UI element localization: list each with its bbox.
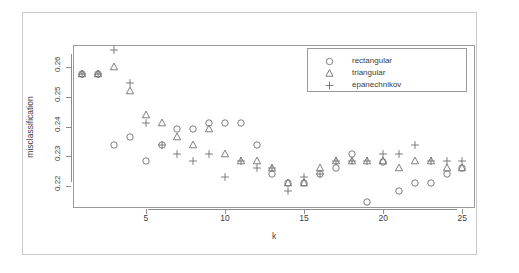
data-point-rectangular: [205, 118, 214, 127]
data-point-rectangular: [442, 169, 451, 178]
data-point-triangular: [379, 156, 388, 165]
data-point-epanechnikov: [379, 150, 388, 159]
y-tick-label: 0.23: [53, 151, 62, 161]
data-point-epanechnikov: [395, 150, 404, 159]
data-point-triangular: [458, 163, 467, 172]
y-tick-label: 0.26: [53, 62, 62, 72]
y-tick-label: 0.22: [53, 181, 62, 191]
y-tick-mark: [66, 127, 71, 128]
data-point-triangular: [300, 179, 309, 188]
data-point-triangular: [331, 156, 340, 165]
data-point-triangular: [363, 156, 372, 165]
x-axis-title: k: [272, 231, 276, 241]
data-point-triangular: [442, 163, 451, 172]
data-point-epanechnikov: [110, 46, 119, 55]
data-point-triangular: [236, 156, 245, 165]
data-point-epanechnikov: [141, 118, 150, 127]
data-point-epanechnikov: [363, 156, 372, 165]
data-point-triangular: [94, 70, 103, 79]
data-point-triangular: [252, 156, 261, 165]
data-point-triangular: [173, 132, 182, 141]
y-tick-label: 0.24: [53, 122, 62, 132]
data-point-rectangular: [315, 169, 324, 178]
data-point-triangular: [141, 110, 150, 119]
figure-canvas: 0.220.230.240.250.26 misclassification 5…: [0, 0, 519, 273]
x-tick-label: 20: [378, 213, 387, 223]
data-point-epanechnikov: [284, 186, 293, 195]
data-point-triangular: [220, 150, 229, 159]
y-tick-label: 0.25: [53, 92, 62, 102]
data-point-rectangular: [78, 70, 87, 79]
data-point-epanechnikov: [173, 150, 182, 159]
data-point-rectangular: [410, 179, 419, 188]
data-point-rectangular: [395, 186, 404, 195]
data-point-epanechnikov: [189, 156, 198, 165]
data-point-epanechnikov: [347, 156, 356, 165]
data-point-epanechnikov: [315, 169, 324, 178]
data-point-rectangular: [173, 125, 182, 134]
y-tick-mark: [66, 97, 71, 98]
data-point-triangular: [268, 163, 277, 172]
data-point-epanechnikov: [205, 150, 214, 159]
data-point-triangular: [284, 179, 293, 188]
data-point-epanechnikov: [252, 163, 261, 172]
data-point-epanechnikov: [300, 172, 309, 181]
data-point-epanechnikov: [220, 172, 229, 181]
data-point-epanechnikov: [458, 156, 467, 165]
data-point-triangular: [347, 156, 356, 165]
data-point-rectangular: [94, 70, 103, 79]
data-point-triangular: [205, 125, 214, 134]
y-tick-mark: [66, 156, 71, 157]
data-point-epanechnikov: [331, 156, 340, 165]
x-tick-label: 5: [143, 213, 148, 223]
x-axis-line: [148, 209, 457, 210]
legend-label: rectangular: [352, 55, 392, 67]
data-point-epanechnikov: [410, 141, 419, 150]
data-point-rectangular: [220, 118, 229, 127]
y-tick-mark: [66, 67, 71, 68]
x-tick-label: 15: [299, 213, 308, 223]
y-axis-line: [71, 54, 72, 182]
data-point-rectangular: [236, 118, 245, 127]
data-point-rectangular: [110, 141, 119, 150]
data-point-rectangular: [268, 169, 277, 178]
data-point-triangular: [189, 141, 198, 150]
y-axis-title: misclassification: [25, 96, 35, 157]
data-point-epanechnikov: [236, 156, 245, 165]
x-tick-label: 25: [458, 213, 467, 223]
data-point-rectangular: [300, 179, 309, 188]
legend-marker-plus-icon: [322, 79, 336, 91]
data-point-rectangular: [189, 125, 198, 134]
data-point-rectangular: [331, 163, 340, 172]
data-point-epanechnikov: [78, 70, 87, 79]
data-point-triangular: [426, 156, 435, 165]
data-point-rectangular: [347, 150, 356, 159]
data-point-triangular: [78, 70, 87, 79]
data-point-triangular: [315, 163, 324, 172]
data-point-epanechnikov: [268, 163, 277, 172]
data-point-triangular: [410, 156, 419, 165]
data-point-rectangular: [252, 141, 261, 150]
data-point-rectangular: [458, 163, 467, 172]
y-tick-mark: [66, 186, 71, 187]
data-point-epanechnikov: [442, 156, 451, 165]
data-point-epanechnikov: [426, 156, 435, 165]
chart-legend: rectangulartriangularepanechnikov: [307, 48, 467, 92]
data-point-rectangular: [379, 157, 388, 166]
legend-item-rectangular: rectangular: [308, 55, 466, 67]
data-point-triangular: [125, 86, 134, 95]
data-point-rectangular: [284, 179, 293, 188]
data-point-rectangular: [157, 141, 166, 150]
data-point-rectangular: [141, 156, 150, 165]
legend-item-triangular: triangular: [308, 67, 466, 79]
data-point-triangular: [157, 118, 166, 127]
data-point-epanechnikov: [157, 141, 166, 150]
legend-label: epanechnikov: [352, 79, 401, 91]
legend-marker-triangle-icon: [322, 67, 336, 79]
legend-label: triangular: [352, 67, 385, 79]
data-point-rectangular: [363, 198, 372, 207]
data-point-rectangular: [125, 132, 134, 141]
data-point-rectangular: [426, 179, 435, 188]
x-tick-label: 10: [220, 213, 229, 223]
data-point-epanechnikov: [94, 70, 103, 79]
